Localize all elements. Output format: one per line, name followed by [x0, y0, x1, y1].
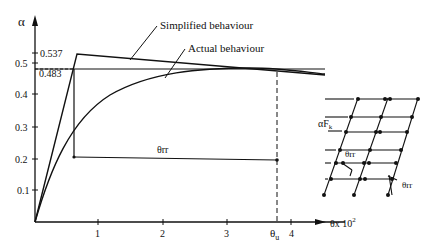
- y-tick-0.3: 0.3: [15, 122, 28, 133]
- frame-theta-rr-2: θrr: [402, 180, 412, 190]
- frame-force-label: αFk: [318, 118, 333, 131]
- alpha-theta-diagram: α 0.537 0.5 0.483 0.4 0.3 0.2 0.1 1 2 3 …: [0, 0, 433, 252]
- x-tick-1: 1: [95, 228, 100, 239]
- simplified-callout-line: [130, 26, 157, 60]
- actual-behaviour-curve: [35, 68, 325, 222]
- x-tick-3: 3: [224, 228, 229, 239]
- x-axis-arrow: [315, 219, 326, 225]
- y-tick-0.4: 0.4: [15, 89, 28, 100]
- frame-theta-rr-1: θrr: [345, 149, 355, 159]
- y-tick-0.5: 0.5: [15, 58, 28, 69]
- simplified-behaviour-label: Simplified behaviour: [160, 19, 254, 31]
- actual-behaviour-label: Actual behaviour: [188, 42, 264, 54]
- plateau-label: 0.483: [39, 68, 62, 79]
- y-tick-0.2: 0.2: [15, 154, 28, 165]
- x-tick-2: 2: [160, 228, 165, 239]
- peak-label: 0.537: [40, 48, 63, 59]
- y-axis-label: α: [18, 14, 25, 29]
- theta-u-label: θu: [270, 227, 279, 242]
- simplified-behaviour-line: [35, 54, 325, 222]
- theta-rr-bracket: [74, 157, 277, 160]
- y-axis-arrow: [32, 15, 38, 26]
- x-axis-label: θx 102: [330, 216, 356, 229]
- y-tick-0.1: 0.1: [17, 185, 30, 196]
- x-tick-4: 4: [289, 228, 294, 239]
- theta-rr-label: θrr: [157, 144, 169, 155]
